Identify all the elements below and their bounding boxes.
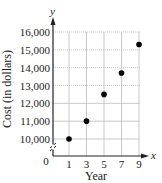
data-point [84, 118, 90, 124]
y-tick-label: 14,000 [20, 62, 51, 74]
x-axis-variable: x [150, 149, 156, 161]
x-tick-label: 9 [136, 158, 142, 170]
x-axis-arrow-icon [141, 154, 149, 159]
x-axis-label: Year [85, 169, 107, 183]
y-tick-label: 10,000 [20, 133, 51, 145]
data-point [136, 42, 142, 48]
y-axis-arrow-icon [51, 17, 56, 25]
y-tick-label: 11,000 [20, 115, 50, 127]
y-axis-label: Cost (in dollars) [0, 50, 14, 128]
data-point [66, 136, 72, 142]
origin-label: 0 [43, 155, 49, 167]
y-tick-label: 16,000 [20, 26, 51, 38]
y-tick-label: 13,000 [20, 80, 51, 92]
data-point [101, 92, 107, 98]
y-tick-label: 15,000 [20, 44, 51, 56]
x-tick-label: 1 [66, 158, 72, 170]
x-tick-label: 7 [119, 158, 125, 170]
data-point [119, 70, 125, 76]
y-tick-label: 12,000 [20, 97, 51, 109]
grid-lines [53, 32, 140, 156]
y-axis-variable: y [49, 5, 55, 17]
scatter-chart: 10,00011,00012,00013,00014,00015,00016,0… [0, 0, 162, 183]
axes [50, 17, 149, 159]
y-tick-labels: 10,00011,00012,00013,00014,00015,00016,0… [20, 26, 51, 145]
